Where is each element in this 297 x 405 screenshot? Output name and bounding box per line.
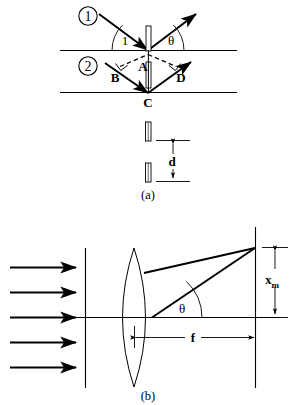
ray-1-label: 1	[85, 9, 92, 24]
slit-upper	[146, 122, 152, 141]
focused-ray-lower	[152, 248, 255, 318]
diffraction-angle-arc	[187, 282, 203, 318]
incident-plane-wave	[10, 268, 76, 368]
slit-separation-label: d	[168, 154, 176, 169]
panel-b-caption: (b)	[141, 389, 156, 403]
reflection-angle-label: θ	[168, 33, 174, 48]
ray-2-marker: 2	[79, 57, 97, 75]
slit-lower	[146, 163, 152, 182]
figure-root: 1 2 1 θ A B C D d	[0, 0, 297, 405]
focal-length-dimension: f	[135, 326, 256, 348]
panel-a-diagram: 1 2 1 θ A B C D d	[0, 0, 297, 205]
ray-2-label: 2	[85, 59, 92, 74]
spot-height-dimension: xm	[262, 248, 288, 318]
point-d-label: D	[176, 70, 185, 85]
diffraction-angle-label: θ	[179, 301, 185, 316]
point-c-label: C	[143, 95, 152, 110]
spot-height-label-subscript: m	[271, 280, 279, 290]
point-b-label: B	[111, 70, 120, 85]
panel-a-caption: (a)	[141, 188, 155, 202]
focused-ray-upper	[144, 248, 255, 273]
panel-b-diagram: θ xm f (b)	[0, 205, 297, 405]
ray-1-marker: 1	[79, 7, 97, 25]
slit-separation-dimension: d	[156, 141, 190, 182]
incident-angle-label: 1	[122, 33, 129, 48]
focal-length-label: f	[191, 330, 196, 345]
point-a-label: A	[138, 59, 148, 74]
